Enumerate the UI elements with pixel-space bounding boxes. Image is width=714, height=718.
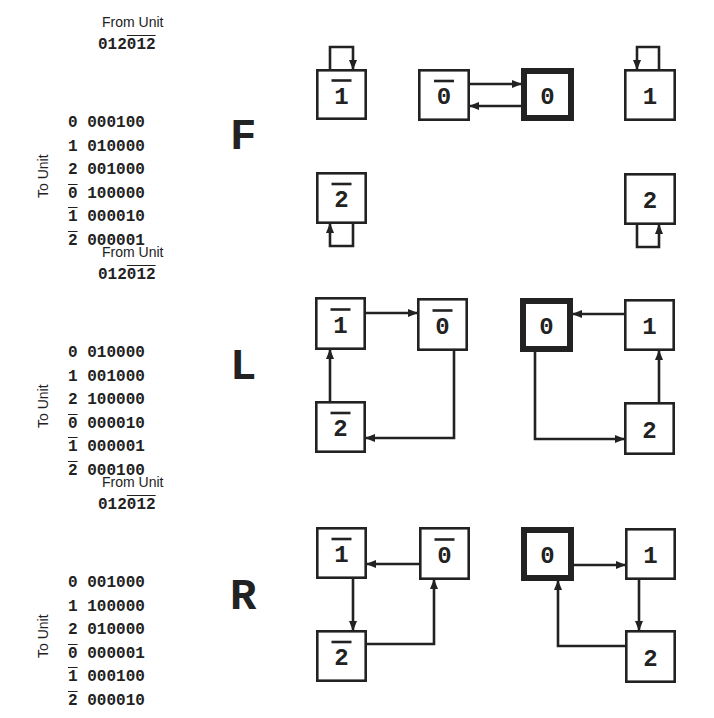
arrow-2b-to-0b [367,580,434,644]
unit-box-label: 2 [333,416,347,443]
arrow-0b-to-2b [366,351,454,438]
arrow-1b-to-1b [330,47,353,69]
unit-box-2: 2 [626,631,674,681]
unit-box-label: 2 [642,418,656,445]
unit-box-label: 0 [540,84,554,111]
diagram-r: 102012 [317,528,674,681]
unit-box-label: 0 [539,314,553,341]
unit-box-label: 0 [437,543,451,570]
unit-box-label: 1 [333,313,347,340]
unit-box-0: 0 [524,71,571,118]
arrow-2b-to-2b [330,224,353,246]
unit-box-label: 1 [334,84,348,111]
diagram-l: 102012 [316,298,673,453]
unit-box-label: 1 [643,84,657,111]
unit-box-label: 2 [643,646,657,673]
arrow-2-to-2 [637,225,659,247]
unit-box-1b: 1 [317,70,365,118]
unit-box-1: 1 [626,529,674,578]
unit-box-1: 1 [625,70,674,119]
unit-box-0b: 0 [418,299,466,349]
arrow-0-to-2 [535,352,624,439]
unit-box-2b: 2 [317,173,365,222]
diagram-f: 100122 [317,47,674,247]
unit-box-2: 2 [625,174,674,223]
unit-box-2: 2 [625,403,673,453]
unit-box-label: 0 [540,543,554,570]
unit-box-0b: 0 [420,528,468,578]
unit-box-1b: 1 [317,528,365,577]
unit-box-label: 1 [643,543,657,570]
unit-box-label: 2 [334,645,348,672]
unit-box-label: 1 [642,314,656,341]
unit-box-label: 0 [435,314,449,341]
arrow-1-to-1 [637,47,659,69]
unit-box-2b: 2 [316,402,364,451]
unit-box-1b: 1 [316,298,364,348]
unit-box-0: 0 [524,530,571,578]
unit-box-0: 0 [523,301,570,349]
unit-box-label: 1 [334,542,348,569]
unit-box-label: 2 [643,188,657,215]
unit-box-2b: 2 [317,631,365,680]
state-transition-diagrams: 100122102012102012 [0,0,714,718]
unit-box-0b: 0 [419,70,468,119]
arrow-2-to-0 [558,581,625,646]
unit-box-label: 2 [334,187,348,214]
unit-box-1: 1 [625,300,673,349]
unit-box-label: 0 [437,84,451,111]
